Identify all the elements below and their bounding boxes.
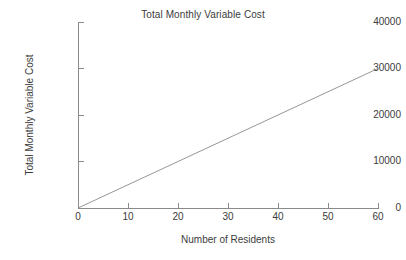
x-axis-tick-label: 30 [208, 212, 248, 222]
x-axis-tick [378, 203, 379, 208]
y-axis-title-container: Total Monthly Variable Cost [23, 15, 37, 215]
x-axis-tick [78, 203, 79, 208]
y-axis-tick [79, 208, 84, 209]
chart-figure: Total Monthly Variable Cost 40000 30000 … [0, 0, 406, 260]
x-axis-tick-label: 20 [158, 212, 198, 222]
y-axis-tick-label: 30000 [332, 63, 406, 73]
y-axis-tick [79, 22, 84, 23]
x-axis-tick-label: 50 [308, 212, 348, 222]
y-axis-tick-label: 40000 [332, 17, 406, 27]
x-axis-tick-label: 0 [58, 212, 98, 222]
y-axis-tick [79, 161, 84, 162]
x-axis-tick [278, 203, 279, 208]
y-axis-tick [79, 115, 84, 116]
x-axis-title: Number of Residents [78, 234, 378, 245]
y-axis-tick [79, 68, 84, 69]
x-axis-tick [178, 203, 179, 208]
x-axis-tick-label: 10 [108, 212, 148, 222]
x-axis-tick [128, 203, 129, 208]
y-axis-title: Total Monthly Variable Cost [23, 15, 37, 215]
y-axis-tick-label: 10000 [332, 156, 406, 166]
y-axis-tick-label: 20000 [332, 110, 406, 120]
x-axis-tick-label: 60 [358, 212, 398, 222]
x-axis-tick [228, 203, 229, 208]
series-line-total-monthly-variable-cost [78, 69, 378, 209]
x-axis-tick [328, 203, 329, 208]
x-axis-tick-label: 40 [258, 212, 298, 222]
